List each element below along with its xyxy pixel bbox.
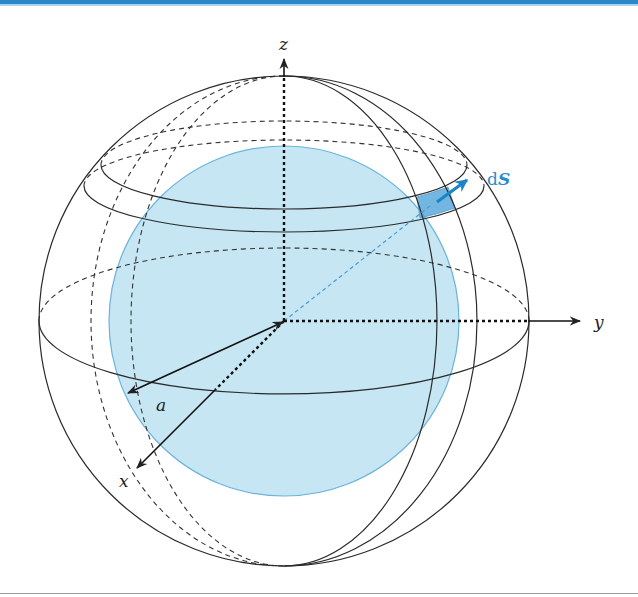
sphere-diagram: z y x a dS (0, 0, 638, 597)
bottom-rule (0, 593, 638, 594)
ds-label: dS (487, 169, 510, 189)
x-axis-label: x (119, 471, 129, 491)
y-axis-label: y (593, 312, 604, 332)
ds-label-d: d (487, 169, 498, 189)
radius-label: a (156, 395, 166, 415)
ds-label-S: S (498, 169, 510, 189)
z-axis-label: z (278, 34, 289, 54)
